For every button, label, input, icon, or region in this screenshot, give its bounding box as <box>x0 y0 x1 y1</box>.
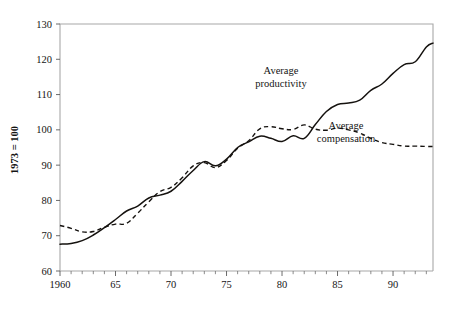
x-tick-label-1970: 70 <box>166 279 177 290</box>
x-tick-label-1980: 80 <box>277 279 288 290</box>
chart-plot: 60708090100110120130 1960657075808590 Av… <box>0 0 454 315</box>
y-tick-label-110: 110 <box>37 89 52 100</box>
y-tick-label-130: 130 <box>36 19 52 30</box>
x-tick-label-1965: 65 <box>110 279 121 290</box>
y-tick-label-60: 60 <box>42 266 53 277</box>
axis-ticks <box>56 24 426 276</box>
y-axis-tick-labels: 60708090100110120130 <box>36 19 52 277</box>
y-axis-title-text: 1973 = 100 <box>9 126 20 174</box>
plot-border <box>60 24 433 271</box>
chart-container: 60708090100110120130 1960657075808590 Av… <box>0 0 454 315</box>
x-tick-label-1975: 75 <box>221 279 232 290</box>
series-annotations: AverageproductivityAveragecompensation <box>255 65 376 144</box>
annotation-average-compensation: Averagecompensation <box>317 120 376 144</box>
y-tick-label-90: 90 <box>42 160 53 171</box>
y-axis-title: 1973 = 100 <box>9 126 20 174</box>
y-tick-label-120: 120 <box>36 54 52 65</box>
series-line-productivity <box>60 43 433 244</box>
plot-frame <box>60 24 433 271</box>
x-tick-label-1990: 90 <box>388 279 399 290</box>
x-axis-tick-labels: 1960657075808590 <box>50 279 399 290</box>
data-series-group <box>60 43 433 244</box>
x-tick-label-1960: 1960 <box>50 279 71 290</box>
series-line-compensation <box>60 125 433 232</box>
y-tick-label-100: 100 <box>36 124 52 135</box>
annotation-average-productivity: Averageproductivity <box>255 65 307 89</box>
y-tick-label-70: 70 <box>42 230 53 241</box>
y-tick-label-80: 80 <box>42 195 53 206</box>
x-tick-label-1985: 85 <box>332 279 343 290</box>
